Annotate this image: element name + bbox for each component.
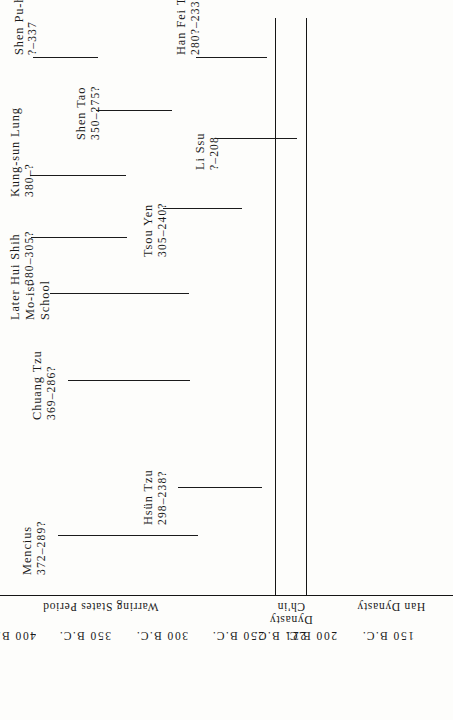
entry-dates: 372–289?: [35, 520, 48, 575]
axis-tick-300bc: 300 B.C.: [148, 630, 188, 642]
tick-year: 150: [392, 630, 414, 642]
bar-shen-pu-hai: [33, 57, 98, 58]
era-rule-200bc: [306, 18, 307, 595]
tick-year: 350: [89, 630, 111, 642]
bar-chuang-tzu: [68, 380, 190, 381]
entry-dates: 350–275?: [89, 85, 102, 140]
entry-dates: 305–240?: [156, 202, 169, 257]
tick-year: 300: [166, 630, 188, 642]
tick-suffix: B.C.: [211, 630, 237, 642]
entry-name: Shen Pu-hai: [12, 0, 27, 55]
axis-tick-350bc: 350 B.C.: [71, 630, 111, 642]
entry-dates: 369–286?: [45, 365, 58, 420]
era-label-text-line2: Ch'in: [253, 600, 329, 613]
entry-dates: 298–238?: [156, 470, 169, 525]
era-label-han-dynasty: Han Dynasty: [336, 600, 446, 613]
axis-tick-150bc: 150 B.C.: [374, 630, 414, 642]
entry-name-line2: Mo-ist: [23, 282, 38, 320]
axis-tick-400bc: 400 B.C.: [0, 630, 36, 642]
tick-suffix: B.C.: [0, 630, 10, 642]
tick-suffix: B.C.: [58, 630, 84, 642]
bar-kung-sun-lung: [30, 175, 126, 176]
entry-dates: ?–208: [208, 136, 221, 170]
era-label-warring-states: Warring States Period: [8, 600, 193, 613]
bar-later-moist-school: [50, 293, 189, 294]
era-label-text: Warring States Period: [42, 600, 158, 613]
era-rule-221bc: [275, 18, 276, 595]
entry-name: Hui Shih: [8, 233, 23, 285]
tick-suffix: B.C.: [253, 630, 279, 642]
tick-suffix: B.C.: [361, 630, 387, 642]
tick-suffix: B.C.: [135, 630, 161, 642]
axis-tick-200bc: 200 B.C.: [297, 630, 337, 642]
era-label-text-line1: Dynasty: [253, 613, 329, 626]
entry-name: Han Fei Tzu: [174, 0, 189, 55]
entry-name-line1: Later: [8, 289, 23, 320]
entry-dates: 380–305?: [23, 230, 36, 285]
entry-name: Tsou Yen: [141, 204, 156, 257]
bar-hsun-tzu: [178, 487, 262, 488]
entry-name-line3: School: [38, 280, 53, 320]
tick-year: 400: [14, 630, 36, 642]
time-axis-line: [0, 595, 453, 596]
entry-dates: 380–?: [23, 163, 36, 197]
bar-shen-tao: [96, 110, 172, 111]
entry-name: Shen Tao: [74, 87, 89, 140]
entry-dates: ?–337: [26, 21, 39, 55]
tick-year: 200: [315, 630, 337, 642]
entry-name: Li Ssu: [193, 133, 208, 170]
tick-suffix: B.C.: [284, 630, 310, 642]
bar-tsou-yen: [163, 208, 242, 209]
bar-hui-shih: [31, 237, 127, 238]
entry-name: Kung-sun Lung: [8, 107, 23, 197]
entry-name: Chuang Tzu: [30, 350, 45, 420]
era-label-chin-dynasty: Dynasty Ch'in: [253, 600, 329, 626]
entry-dates: 280?–233: [189, 0, 202, 55]
entry-name: Mencius: [20, 526, 35, 575]
timeline-figure: Shen Pu-hai ?–337 Han Fei Tzu 280?–233 S…: [0, 0, 453, 720]
era-label-text: Han Dynasty: [357, 600, 426, 613]
bar-mencius: [58, 535, 198, 536]
entry-name: Hsün Tzu: [141, 470, 156, 526]
bar-li-ssu: [215, 138, 297, 139]
bar-han-fei-tzu: [196, 57, 267, 58]
